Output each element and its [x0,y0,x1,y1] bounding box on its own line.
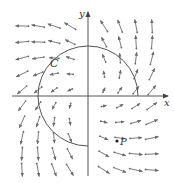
field-arrow [131,121,141,124]
field-arrow [146,120,158,125]
field-arrow-tail [56,87,58,89]
field-arrow [36,117,39,127]
field-arrow-tail [98,166,100,168]
point-p-dot [115,139,118,142]
field-arrow-tail [107,31,109,33]
field-arrow [52,164,57,176]
field-arrow [99,151,109,157]
field-arrow-tail [44,26,46,28]
field-arrow-tail [27,55,29,57]
field-arrow-tail [147,94,149,96]
field-arrow-tail [52,147,54,149]
field-arrow [48,41,59,44]
field-arrow [119,36,122,47]
field-arrow-tail [113,167,115,169]
vector-field-arrows [16,20,159,177]
field-arrow [101,121,108,123]
field-arrow-tail [74,44,76,46]
field-arrow-tail [151,48,153,50]
field-arrow [22,164,23,177]
field-arrow [130,138,142,139]
field-arrow-tail [130,123,132,125]
field-arrow-tail [38,131,40,133]
field-arrow [152,20,153,33]
field-arrow-tail [36,163,38,165]
field-arrow [146,137,159,140]
field-arrow-tail [129,153,131,155]
field-arrow-tail [23,131,25,133]
field-arrow-tail [98,150,100,152]
field-arrow-tail [120,62,122,64]
field-arrow-tail [22,147,24,149]
field-arrow-tail [101,106,103,108]
field-arrow-tail [26,85,28,87]
field-arrow-tail [73,59,75,61]
field-arrow [116,122,124,123]
field-arrow [135,52,136,63]
field-arrow-tail [69,118,71,120]
field-arrow-tail [114,136,116,138]
field-arrow [22,148,23,161]
field-arrow [147,103,157,110]
field-arrow-tail [57,72,59,74]
field-arrow-tail [28,41,30,43]
field-arrow [132,103,140,108]
field-arrow-tail [37,147,39,149]
field-arrow-tail [136,32,138,34]
curve-c-label: C [50,57,59,70]
field-arrow-tail [118,77,120,79]
field-arrow-tail [99,135,101,137]
field-arrow [68,134,71,142]
field-arrow [130,169,143,172]
field-arrow-tail [113,151,115,153]
field-arrow-tail [145,124,147,126]
field-arrow-tail [131,108,133,110]
field-arrow [32,57,44,59]
field-arrow-tail [55,102,57,104]
field-arrow-tail [102,91,104,93]
field-arrow-tail [151,32,153,34]
field-arrow [16,56,29,59]
field-arrow-tail [21,163,23,165]
field-arrow-tail [67,133,69,135]
field-arrow-tail [72,73,74,75]
field-arrow [21,132,24,145]
field-arrow-tail [148,79,150,81]
field-arrow [119,70,120,78]
field-arrow-tail [132,93,134,95]
field-arrow [99,167,110,174]
field-arrow-tail [66,164,68,166]
field-arrow [148,85,156,94]
field-arrow-tail [145,138,147,140]
field-arrow [66,57,74,60]
field-arrow [33,72,43,76]
field-arrow-tail [121,31,123,33]
field-arrow [118,87,122,93]
field-arrow-tail [27,70,29,72]
field-arrow [102,37,107,46]
field-arrow-tail [106,46,108,48]
field-arrow [51,88,57,92]
field-arrow [101,21,108,32]
field-arrow [65,40,75,45]
field-arrow [67,164,74,175]
field-arrow-tail [67,148,69,150]
field-arrow [114,152,126,155]
field-arrow-tail [59,42,61,44]
field-arrow [150,52,153,65]
field-arrow [19,116,24,128]
field-arrow [50,73,58,75]
field-arrow [16,41,29,42]
field-arrow-tail [24,115,26,117]
field-arrow [149,68,154,79]
field-arrow-tail [105,61,107,63]
field-arrow [104,71,105,77]
field-arrow [146,170,159,171]
field-arrow [146,154,159,155]
field-arrow-tail [104,76,106,78]
field-arrow [117,104,123,107]
field-arrow-tail [28,25,30,27]
field-arrow-tail [75,28,77,30]
field-arrow-tail [70,103,72,105]
field-arrow-tail [40,101,42,103]
